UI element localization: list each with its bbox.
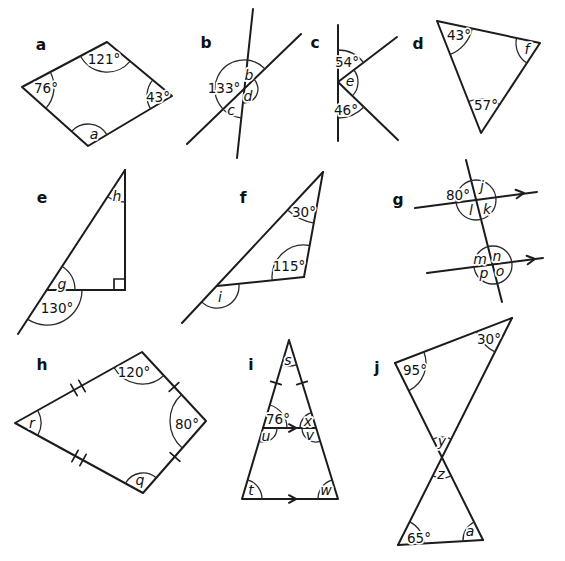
angle-unknown-bottom: q [136, 472, 145, 488]
angle-unknown-middle: e [346, 73, 355, 89]
angle-value-left: 76° [34, 80, 58, 96]
right-angle-mark [114, 279, 125, 290]
angle-value-bottom-left: 65° [407, 530, 431, 546]
angle-value-top-tl: 80° [446, 187, 470, 203]
angle-unknown-top: b [245, 67, 254, 83]
angle-value-right: 80° [175, 416, 199, 432]
angle-value-right: 43° [146, 89, 170, 105]
angle-unknown-u: u [262, 428, 271, 444]
figure-c: c 54° e 46° [310, 25, 398, 141]
angle-value-top-left: 43° [447, 27, 471, 43]
figure-h: h 120° r 80° q [15, 352, 206, 493]
figure-label: e [37, 189, 48, 207]
angle-unknown-exterior: i [218, 289, 222, 305]
worksheet-canvas: a 121° 76° 43° a b b 133° d c c 54° e 46… [0, 0, 565, 561]
figure-label: b [200, 34, 211, 52]
figure-g: g 80° j l k m n p o [392, 160, 543, 302]
angle-value-mid-left: 76° [266, 411, 290, 427]
angle-unknown-apex: s [284, 352, 291, 368]
angle-unknown-right: d [244, 88, 253, 104]
angle-arc-left [38, 410, 41, 435]
angle-unknown-bottom: a [90, 126, 99, 142]
figure-j: j 30° 95° y z 65° a [373, 318, 512, 546]
figure-f: f 30° 115° i [182, 172, 323, 323]
angle-unknown-inner: g [58, 276, 67, 292]
figure-b: b b 133° d c [187, 9, 301, 158]
angle-value-top-right: 30° [477, 331, 501, 347]
figure-label: j [373, 359, 379, 377]
angle-unknown-top: h [113, 188, 122, 204]
angle-unknown-w: w [320, 482, 332, 498]
angle-value-outer: 130° [41, 300, 74, 316]
base-side [217, 277, 304, 286]
long-side-line [182, 172, 323, 323]
angle-unknown-v: v [306, 427, 315, 443]
right-side [304, 172, 323, 277]
figure-label: d [412, 35, 423, 53]
cross-line-2 [395, 363, 483, 540]
angle-unknown-bot-br: o [496, 263, 505, 279]
angle-unknown-z: z [436, 466, 445, 482]
angle-unknown-right: f [525, 41, 532, 57]
angle-value-bottom: 46° [334, 102, 358, 118]
angle-value-bottom: 57° [474, 97, 498, 113]
double-tick-top-left-1 [71, 384, 77, 395]
parallel-line-top [415, 192, 537, 208]
angle-value-left: 133° [208, 80, 241, 96]
angle-unknown-top-br: k [483, 201, 492, 217]
figure-a: a 121° 76° 43° a [22, 36, 172, 146]
figure-i: i s 76° u x v t w [242, 340, 338, 503]
angle-value-top: 121° [88, 51, 121, 67]
angle-value-inner: 115° [273, 258, 306, 274]
angle-value-top: 54° [335, 54, 359, 70]
figure-label: c [310, 34, 319, 52]
angle-unknown-bottom: c [227, 102, 235, 118]
figure-label: g [392, 191, 403, 209]
angle-unknown-top-bl: l [469, 202, 473, 218]
angle-unknown-t: t [248, 482, 254, 498]
worksheet-page: a 121° 76° 43° a b b 133° d c c 54° e 46… [0, 0, 565, 561]
angle-unknown-left: r [29, 415, 36, 431]
figure-label: f [240, 189, 247, 207]
angle-unknown-bot-tr: n [493, 248, 502, 264]
angle-unknown-a: a [466, 523, 475, 539]
angle-value-top-left: 95° [403, 362, 427, 378]
figure-label: i [248, 356, 253, 374]
angle-unknown-bot-bl: p [479, 265, 489, 281]
angle-value-top: 120° [118, 364, 151, 380]
figure-d: d 43° f 57° [412, 21, 540, 133]
angle-value-apex: 30° [292, 204, 316, 220]
figure-label: h [36, 356, 47, 374]
angle-unknown-y: y [437, 433, 447, 449]
figure-label: a [36, 36, 46, 54]
figure-e: e h g 130° [18, 170, 125, 334]
